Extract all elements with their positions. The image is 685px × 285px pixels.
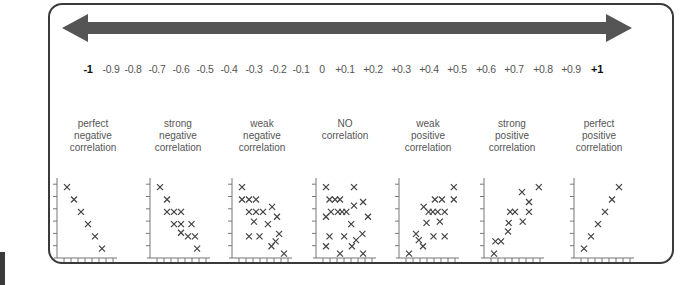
cross-marker-icon [323, 243, 329, 249]
cross-marker-icon [268, 243, 274, 249]
cross-marker-icon [413, 231, 419, 237]
cross-marker-icon [328, 209, 334, 215]
cross-marker-icon [269, 204, 275, 210]
cross-marker-icon [185, 233, 191, 239]
cross-marker-icon [348, 221, 354, 227]
cross-marker-icon [353, 237, 359, 243]
cross-marker-icon [251, 219, 257, 225]
cross-marker-icon [581, 246, 587, 252]
cross-marker-icon [194, 246, 200, 252]
cross-marker-icon [437, 219, 443, 225]
cross-marker-icon [253, 209, 259, 215]
cross-marker-icon [189, 221, 195, 227]
scatter-plots [0, 0, 685, 285]
cross-marker-icon [157, 184, 163, 190]
cross-marker-icon [451, 184, 457, 190]
cross-marker-icon [595, 221, 601, 227]
cross-marker-icon [178, 230, 184, 236]
cross-marker-icon [451, 197, 457, 203]
cross-marker-icon [341, 233, 347, 239]
cross-marker-icon [519, 189, 525, 195]
cross-marker-icon [498, 238, 504, 244]
cross-marker-icon [420, 243, 426, 249]
cross-marker-icon [257, 233, 263, 239]
cross-marker-icon [512, 209, 518, 215]
scatter-plot [480, 178, 544, 262]
scatter-plot [570, 178, 634, 262]
cross-marker-icon [359, 231, 365, 237]
cross-marker-icon [78, 209, 84, 215]
cross-marker-icon [616, 184, 622, 190]
cross-marker-icon [337, 251, 343, 257]
cross-marker-icon [178, 209, 184, 215]
cross-marker-icon [588, 233, 594, 239]
cross-marker-icon [164, 197, 170, 203]
cross-marker-icon [526, 209, 532, 215]
cross-marker-icon [431, 233, 437, 239]
cross-marker-icon [505, 228, 511, 234]
cross-marker-icon [164, 209, 170, 215]
scatter-plot [228, 178, 292, 262]
cross-marker-icon [351, 184, 357, 190]
scatter-plot [146, 178, 210, 262]
cross-marker-icon [343, 209, 349, 215]
cross-marker-icon [192, 233, 198, 239]
cross-marker-icon [276, 231, 282, 237]
cross-marker-icon [491, 251, 497, 257]
cross-marker-icon [274, 214, 280, 220]
cross-marker-icon [239, 184, 245, 190]
cross-marker-icon [520, 219, 526, 225]
cross-marker-icon [360, 251, 366, 257]
cross-marker-icon [432, 197, 438, 203]
cross-marker-icon [442, 209, 448, 215]
cross-marker-icon [99, 246, 105, 252]
cross-marker-icon [602, 209, 608, 215]
cross-marker-icon [435, 209, 441, 215]
cross-marker-icon [337, 197, 343, 203]
cross-marker-icon [506, 220, 512, 226]
cross-marker-icon [171, 209, 177, 215]
cross-marker-icon [265, 221, 271, 227]
cross-marker-icon [424, 220, 430, 226]
cross-marker-icon [253, 197, 259, 203]
scatter-plot [53, 178, 117, 262]
cross-marker-icon [360, 199, 366, 205]
cross-marker-icon [246, 233, 252, 239]
cross-marker-icon [351, 203, 357, 209]
cross-marker-icon [349, 243, 355, 249]
cross-marker-icon [260, 209, 266, 215]
cross-marker-icon [64, 184, 70, 190]
cross-marker-icon [246, 209, 252, 215]
cross-marker-icon [442, 233, 448, 239]
cross-marker-icon [171, 221, 177, 227]
cross-marker-icon [327, 197, 333, 203]
cross-marker-icon [71, 197, 77, 203]
cross-marker-icon [178, 221, 184, 227]
cross-marker-icon [536, 184, 542, 190]
cross-marker-icon [281, 251, 287, 257]
cross-marker-icon [323, 184, 329, 190]
cross-marker-icon [492, 238, 498, 244]
cross-marker-icon [416, 237, 422, 243]
scatter-plot [312, 178, 376, 262]
cross-marker-icon [246, 197, 252, 203]
cross-marker-icon [85, 221, 91, 227]
cross-marker-icon [365, 214, 371, 220]
cross-marker-icon [439, 197, 445, 203]
cross-marker-icon [239, 197, 245, 203]
cross-marker-icon [92, 233, 98, 239]
cross-marker-icon [526, 199, 532, 205]
cross-marker-icon [609, 197, 615, 203]
scatter-plot [395, 178, 459, 262]
cross-marker-icon [406, 251, 412, 257]
cross-marker-icon [327, 233, 333, 239]
